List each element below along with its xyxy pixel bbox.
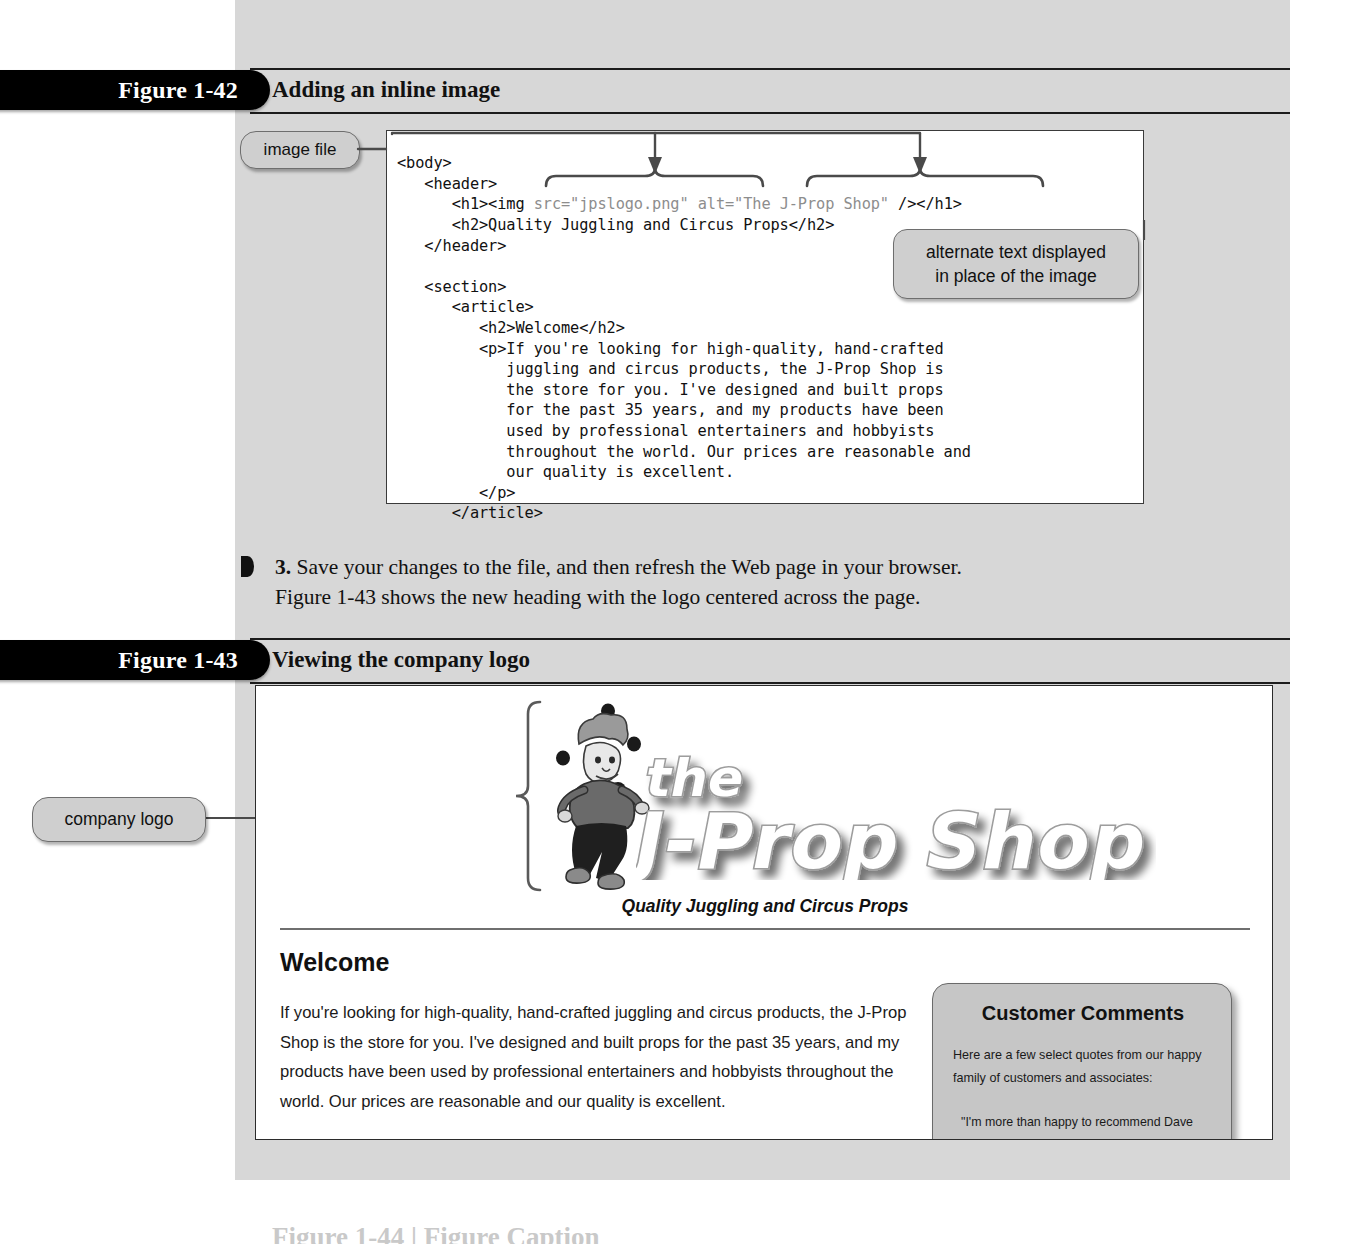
callout-image-file-label: image file: [264, 140, 337, 160]
welcome-heading: Welcome: [280, 948, 389, 977]
step-bullet-arrow: [241, 556, 254, 577]
figure-number-label: Figure 1-42: [118, 77, 238, 104]
code-listing: <body> <header> <h1><img src="jpslogo.pn…: [397, 153, 1137, 524]
site-header: the J-Prop Shop: [256, 692, 1273, 892]
callout-alternate-text-line2: in place of the image: [935, 264, 1097, 288]
welcome-paragraph: If you're looking for high-quality, hand…: [280, 998, 928, 1116]
figure-rule-bottom: [250, 112, 1290, 114]
step-line1: Save your changes to the file, and then …: [297, 555, 962, 579]
header-divider: [280, 928, 1250, 930]
customer-comments-sidebar: Customer Comments Here are a few select …: [932, 983, 1232, 1140]
callout-alternate-text: alternate text displayed in place of the…: [893, 229, 1139, 299]
juggling-ball: [556, 751, 570, 766]
callout-alternate-text-line1: alternate text displayed: [926, 240, 1106, 264]
figure-number-label-2: Figure 1-43: [118, 647, 238, 674]
step-line2: Figure 1-43 shows the new heading with t…: [275, 585, 920, 609]
figure-rule-top-2: [250, 638, 1290, 640]
browser-screenshot: the J-Prop Shop Quality Juggling and Cir…: [255, 685, 1273, 1140]
figure-rule-bottom-2: [250, 682, 1290, 684]
callout-company-logo-label: company logo: [65, 809, 174, 830]
customer-comments-quote: "I'm more than happy to recommend Dave: [961, 1112, 1221, 1132]
logo-wordmark: the J-Prop Shop: [636, 750, 1156, 880]
figure-number-tab-2: Figure 1-43: [0, 640, 270, 680]
figure-title: Adding an inline image: [272, 77, 500, 103]
callout-image-file: image file: [240, 131, 360, 169]
shoe: [598, 874, 624, 889]
callout-company-logo: company logo: [32, 797, 206, 842]
customer-comments-heading: Customer Comments: [933, 1002, 1232, 1025]
figure-rule-top: [250, 68, 1290, 70]
step-number: 3.: [275, 555, 291, 579]
site-tagline: Quality Juggling and Circus Props: [256, 896, 1273, 917]
shoe: [566, 868, 590, 883]
next-section-heading: Figure 1-44 | Figure Caption: [272, 1222, 599, 1244]
customer-comments-intro: Here are a few select quotes from our ha…: [953, 1044, 1215, 1090]
hair: [578, 714, 628, 745]
figure-number-tab: Figure 1-42: [0, 70, 270, 110]
figure-title-2: Viewing the company logo: [272, 647, 530, 673]
code-figure-box: <body> <header> <h1><img src="jpslogo.pn…: [386, 130, 1144, 504]
logo-jpropshop: J-Prop Shop: [636, 797, 1146, 880]
brace-company-logo: [514, 700, 544, 892]
